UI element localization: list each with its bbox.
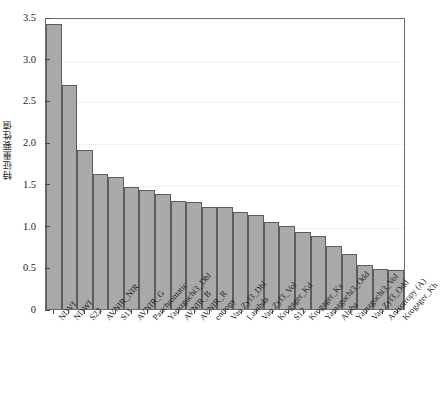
plot-area — [45, 18, 405, 310]
y-tick-mark — [45, 143, 50, 144]
bar — [46, 24, 62, 309]
x-axis-tick — [319, 310, 320, 314]
x-axis-tick — [382, 310, 383, 314]
y-tick-label: 1.0 — [23, 221, 36, 233]
bar — [108, 177, 124, 309]
x-axis-tick — [178, 310, 179, 314]
x-axis-tick — [256, 310, 257, 314]
x-axis-tick — [272, 310, 273, 314]
x-axis-tick — [241, 310, 242, 314]
y-tick-label: 1.5 — [23, 179, 36, 191]
x-axis-tick — [209, 310, 210, 314]
x-axis-tick — [366, 310, 367, 314]
x-axis-tick — [225, 310, 226, 314]
y-tick-mark — [45, 226, 50, 227]
x-axis-tick — [335, 310, 336, 314]
y-tick-label: 3.5 — [23, 12, 36, 24]
y-tick-label: 2.5 — [23, 95, 36, 107]
bar-series — [46, 19, 404, 309]
y-tick-label: 3.0 — [23, 54, 36, 66]
y-tick-label: 0 — [31, 304, 36, 316]
y-tick-mark — [45, 268, 50, 269]
bar-chart-figure: 特征重要性值 00.51.01.52.02.53.03.5 NDVINDWIS2… — [0, 0, 448, 420]
y-tick-mark — [45, 59, 50, 60]
y-tick-mark — [45, 18, 50, 19]
x-axis-tick — [350, 310, 351, 314]
x-axis-tick — [84, 310, 85, 314]
y-tick-label: 2.0 — [23, 137, 36, 149]
bar — [62, 85, 78, 309]
x-axis-tick — [68, 310, 69, 314]
x-axis-tick — [303, 310, 304, 314]
x-axis-tick — [131, 310, 132, 314]
x-axis-labels: NDVINDWIS22AVNIR_NIRS11AVNIR_GPanchromat… — [45, 310, 405, 420]
y-tick-mark — [45, 184, 50, 185]
y-tick-mark — [45, 101, 50, 102]
bar — [93, 174, 109, 309]
x-axis-tick — [397, 310, 398, 314]
y-axis-title: 特征重要性值 — [2, 120, 16, 180]
x-axis-tick — [115, 310, 116, 314]
bar — [77, 150, 93, 309]
x-axis-tick — [147, 310, 148, 314]
x-axis-tick — [162, 310, 163, 314]
x-axis-tick — [53, 310, 54, 314]
x-axis-tick — [288, 310, 289, 314]
x-axis-tick — [100, 310, 101, 314]
y-tick-label: 0.5 — [23, 262, 36, 274]
x-axis-tick — [194, 310, 195, 314]
bar — [139, 190, 155, 309]
